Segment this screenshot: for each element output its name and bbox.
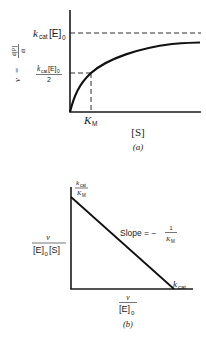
y-label-v: v (12, 78, 22, 82)
half-e: [E] (48, 65, 57, 73)
panel-b-y-axis-label: v [E] 0 [S] (32, 233, 66, 257)
slope-num: 1 (169, 225, 172, 231)
michaelis-menten-curve (70, 43, 200, 113)
ylabel-b-sub0: 0 (45, 251, 49, 257)
x-axis-label-s: [S] (131, 126, 144, 138)
panel-a-y-axis-label: v = d[P] dt (11, 44, 26, 82)
vmax-sub-cat: cat (39, 33, 48, 40)
xlabel-b-num: v (126, 293, 130, 302)
vmax-label: k cat [E] 0 (33, 27, 66, 41)
half-sub-cat: cat (41, 69, 48, 74)
yint-km-sub: M (82, 193, 86, 198)
y-label-eq: = (12, 68, 22, 73)
panel-b-x-axis-label: v [E] 0 (119, 293, 137, 316)
km-label: K M (83, 114, 97, 127)
xint-sub-cat: cat (178, 284, 186, 290)
vmax-sub0: 0 (62, 34, 66, 41)
y-label-den: dt (20, 48, 26, 53)
slope-km-sub: M (171, 239, 175, 244)
y-label-num: d[P] (11, 46, 18, 56)
km-k: K (83, 114, 92, 126)
yint-sub-cat: cat (80, 183, 87, 188)
figure: v = d[P] dt k cat [E] 0 k cat [E] 0 2 K … (0, 0, 206, 343)
xlabel-b-e: [E] (119, 304, 130, 314)
half-sub0: 0 (57, 69, 60, 74)
ylabel-b-num: v (46, 233, 50, 242)
ylabel-b-e: [E] (33, 245, 44, 255)
half-vmax-label: k cat [E] 0 2 (36, 64, 62, 83)
slope-text: Slope = − (120, 228, 156, 238)
xlabel-b-sub0: 0 (131, 310, 135, 316)
caption-b: (b) (123, 319, 133, 329)
vmax-e: [E] (49, 28, 61, 39)
ylabel-b-s: [S] (49, 245, 60, 255)
eadie-hofstee-line (71, 197, 174, 289)
x-intercept-label: k cat (173, 279, 186, 290)
km-sub: M (92, 120, 97, 127)
panel-a: v = d[P] dt k cat [E] 0 k cat [E] 0 2 K … (11, 10, 201, 152)
half-den: 2 (47, 76, 51, 83)
y-intercept-label: k cat K M (75, 179, 88, 198)
panel-b: k cat K M v [E] 0 [S] Slope = − 1 K M k … (32, 179, 193, 329)
slope-annotation: Slope = − 1 K M (120, 225, 177, 244)
caption-a: (a) (133, 142, 144, 152)
